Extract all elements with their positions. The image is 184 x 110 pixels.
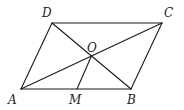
segment-bd	[52, 23, 131, 89]
segment-bc	[131, 23, 162, 89]
point-label-b: B	[126, 93, 136, 107]
point-label-o: O	[87, 41, 97, 55]
point-label-a: A	[7, 93, 17, 107]
diagram-canvas: ABCDOM	[0, 0, 184, 110]
parallelogram-diagram: ABCDOM	[0, 0, 184, 110]
point-label-d: D	[41, 6, 52, 20]
segment-da	[21, 23, 52, 89]
point-label-m: M	[68, 93, 82, 107]
point-label-c: C	[164, 6, 173, 20]
